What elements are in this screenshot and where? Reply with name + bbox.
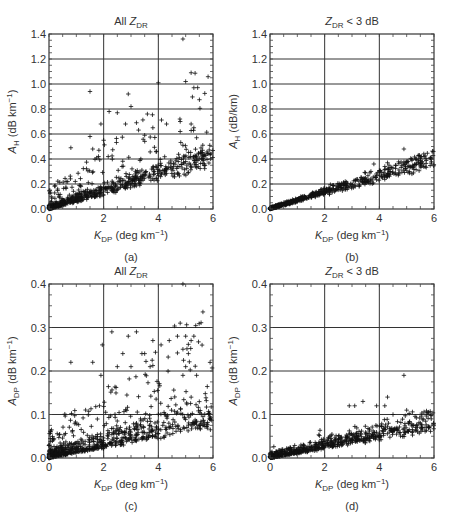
y-tick-label: 0.2	[252, 178, 267, 190]
y-tick-label: 0.1	[252, 409, 267, 421]
panel-a: 02460.00.20.40.60.81.01.21.4All ZDRKDP (…	[5, 15, 216, 263]
x-tick-label: 4	[376, 461, 382, 473]
panel-title: ZDR < 3 dB	[324, 15, 378, 30]
x-axis-label: KDP (deg km−1)	[94, 477, 168, 493]
y-tick-label: 1.2	[252, 53, 267, 65]
panel-title: All ZDR	[114, 15, 148, 30]
x-tick-label: 2	[101, 461, 107, 473]
y-tick-label: 0.0	[31, 452, 46, 464]
y-tick-label: 0.6	[252, 128, 267, 140]
x-tick-label: 4	[376, 212, 382, 224]
y-tick-label: 0.0	[252, 203, 267, 215]
y-tick-label: 0.8	[252, 103, 267, 115]
y-tick-label: 0.3	[252, 322, 267, 334]
x-tick-label: 2	[322, 461, 328, 473]
panel-title: ZDR < 3 dB	[324, 265, 378, 280]
x-axis-label: KDP (deg km−1)	[315, 477, 389, 493]
x-axis-label: KDP (deg km−1)	[315, 228, 389, 244]
panel-label: (a)	[124, 251, 137, 263]
y-axis-label: ADP (dB km−1)	[226, 336, 242, 406]
panel-label: (b)	[345, 251, 358, 263]
figure-svg: 02460.00.20.40.60.81.01.21.4All ZDRKDP (…	[0, 0, 451, 519]
scatter-points	[268, 373, 436, 460]
x-tick-label: 2	[101, 212, 107, 224]
y-tick-label: 0.3	[31, 322, 46, 334]
x-tick-label: 6	[210, 212, 216, 224]
x-axis-label: KDP (deg km−1)	[94, 228, 168, 244]
x-tick-label: 0	[267, 461, 273, 473]
x-tick-label: 6	[210, 461, 216, 473]
y-tick-label: 0.0	[31, 203, 46, 215]
panel-label: (c)	[125, 500, 138, 512]
y-axis-label: ADP (dB km−1)	[5, 336, 21, 406]
y-tick-label: 0.1	[31, 409, 46, 421]
panel-title: All ZDR	[114, 265, 148, 280]
y-tick-label: 0.4	[31, 153, 46, 165]
x-tick-label: 0	[46, 212, 52, 224]
y-tick-label: 1.4	[31, 28, 46, 40]
panel-b: 02460.00.20.40.60.81.01.21.4ZDR < 3 dBKD…	[227, 15, 437, 263]
x-tick-label: 4	[155, 461, 161, 473]
panel-d: 02460.00.10.20.30.4ZDR < 3 dBKDP (deg km…	[226, 265, 437, 512]
x-tick-label: 4	[155, 212, 161, 224]
y-tick-label: 0.4	[252, 153, 267, 165]
y-tick-label: 0.6	[31, 128, 46, 140]
y-tick-label: 0.2	[252, 365, 267, 377]
figure: 02460.00.20.40.60.81.01.21.4All ZDRKDP (…	[0, 0, 451, 519]
y-tick-label: 1.2	[31, 53, 46, 65]
y-tick-label: 0.2	[31, 178, 46, 190]
y-tick-label: 1.0	[252, 78, 267, 90]
y-tick-label: 0.2	[31, 365, 46, 377]
y-axis-label: AH (dB/km)	[227, 94, 242, 150]
panel-c: 02460.00.10.20.30.4All ZDRKDP (deg km−1)…	[5, 265, 216, 512]
y-tick-label: 0.0	[252, 452, 267, 464]
y-tick-label: 1.4	[252, 28, 267, 40]
y-tick-label: 0.4	[252, 278, 267, 290]
scatter-points	[47, 37, 215, 211]
y-tick-label: 0.4	[31, 278, 46, 290]
y-axis-label: AH (dB km−1)	[5, 90, 21, 155]
y-tick-label: 0.8	[31, 103, 46, 115]
y-tick-label: 1.0	[31, 78, 46, 90]
x-tick-label: 0	[46, 461, 52, 473]
x-tick-label: 6	[431, 461, 437, 473]
panel-label: (d)	[345, 500, 358, 512]
x-tick-label: 0	[267, 212, 273, 224]
x-tick-label: 2	[322, 212, 328, 224]
x-tick-label: 6	[431, 212, 437, 224]
scatter-points	[268, 147, 436, 211]
